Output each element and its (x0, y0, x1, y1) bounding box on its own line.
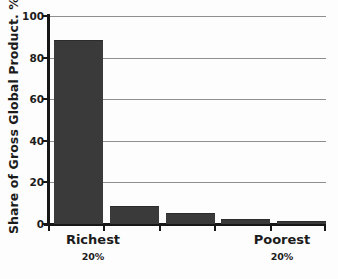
x-axis-labels: Richest 20% Poorest 20% (0, 232, 338, 279)
y-axis-title: Share of Gross Global Product. % (6, 0, 21, 235)
x-axis-label-poorest-sub: 20% (232, 251, 332, 263)
bar-chart-figure: Share of Gross Global Product. % 100 80 … (0, 0, 338, 279)
x-tick-mark (48, 226, 50, 231)
x-axis-label-richest-sub: 20% (38, 251, 148, 263)
bar-third-20 (166, 213, 215, 224)
x-tick-mark (159, 226, 161, 231)
x-tick-mark (214, 226, 216, 231)
bar-second-20 (110, 206, 159, 224)
x-axis-label-richest-main: Richest (38, 232, 148, 248)
x-axis-label-richest: Richest 20% (38, 232, 148, 263)
bar-fourth-20 (221, 219, 270, 224)
bar-poorest-20 (277, 221, 326, 224)
bar-richest-20 (54, 40, 103, 224)
y-tick-label: 100 (22, 11, 44, 22)
bar-series (48, 16, 326, 224)
x-tick-mark (103, 226, 105, 231)
x-axis-label-poorest-main: Poorest (232, 232, 332, 248)
x-axis-label-poorest: Poorest 20% (232, 232, 332, 263)
y-axis-tick-labels: 100 80 60 40 20 0 (22, 0, 44, 232)
x-tick-mark (270, 226, 272, 231)
x-tick-mark (324, 226, 326, 231)
